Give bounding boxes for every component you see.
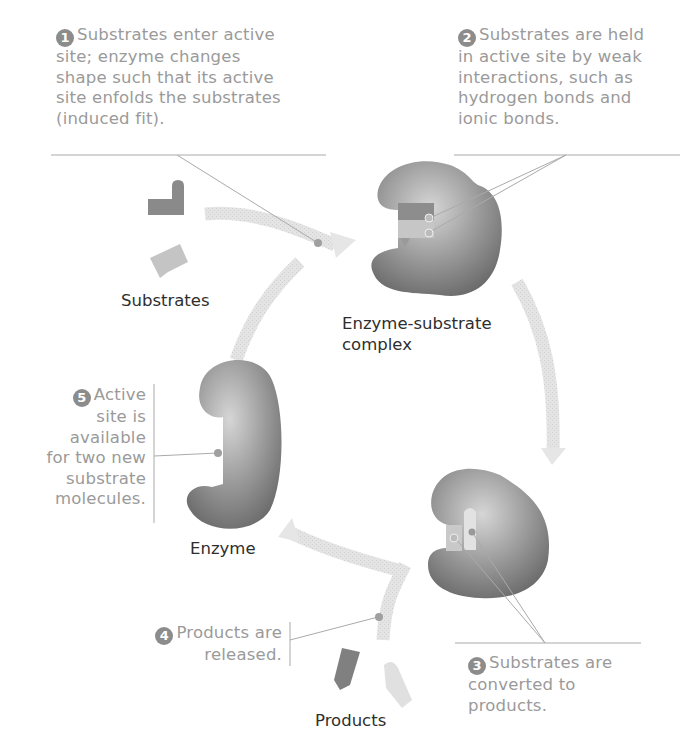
product-light — [384, 662, 412, 708]
complex-label-line-1: Enzyme-substrate — [342, 314, 492, 334]
arrow-complex-to-converted — [517, 282, 553, 455]
enzyme-label: Enzyme — [190, 539, 256, 559]
substrate-dark — [148, 180, 184, 215]
step-5-annotation: 5Active site is available for two new su… — [0, 385, 146, 510]
step-2-line-5: ionic bonds. — [458, 109, 688, 130]
step-1-line-5: (induced fit). — [56, 109, 346, 130]
enzyme-cycle-diagram: 1Substrates enter active site; enzyme ch… — [0, 0, 689, 743]
complex-label-line-2: complex — [342, 335, 412, 355]
product-dark — [334, 648, 360, 690]
step-3-annotation: 3Substrates are converted to products. — [468, 653, 668, 716]
step-3-number-badge: 3 — [468, 657, 486, 675]
step-5-line-3: available — [0, 428, 146, 449]
arrow-product-release — [383, 565, 405, 640]
step-1-line-2: site; enzyme changes — [56, 47, 346, 68]
step-1-line-4: site enfolds the substrates — [56, 88, 346, 109]
step-5-line-5: substrate — [0, 469, 146, 490]
step-4-line-2: released. — [100, 645, 282, 666]
arrow-enzyme-to-substrates — [236, 262, 300, 360]
step-5-line-1: Active — [94, 385, 146, 404]
step-5-number-badge: 5 — [73, 389, 91, 407]
substrate-light — [150, 244, 188, 278]
step-2-line-2: in active site by weak — [458, 47, 688, 68]
step-5-line-6: molecules. — [0, 489, 146, 510]
step-2-line-4: hydrogen bonds and — [458, 88, 688, 109]
step-4-annotation: 4Products are released. — [100, 623, 282, 666]
step-2-annotation: 2Substrates are held in active site by w… — [458, 25, 688, 129]
step-2-number-badge: 2 — [458, 29, 476, 47]
step-1-line-1: Substrates enter active — [77, 25, 275, 44]
substrates-label: Substrates — [121, 291, 210, 311]
enzyme-product-complex — [428, 469, 549, 598]
step-5-line-2: site is — [0, 407, 146, 428]
step-3-line-3: products. — [468, 696, 668, 717]
step-5-line-4: for two new — [0, 448, 146, 469]
step-2-line-1: Substrates are held — [479, 25, 644, 44]
step-4-number-badge: 4 — [155, 627, 173, 645]
product-molecules — [334, 648, 412, 708]
step-3-line-2: converted to — [468, 675, 668, 696]
products-label: Products — [315, 711, 386, 731]
step-1-number-badge: 1 — [56, 29, 74, 47]
step-1-line-3: shape such that its active — [56, 68, 346, 89]
step-4-line-1: Products are — [176, 623, 282, 642]
step-2-line-3: interactions, such as — [458, 68, 688, 89]
substrate-molecules — [148, 180, 188, 278]
arrow-converted-to-enzyme — [285, 530, 398, 570]
step-1-annotation: 1Substrates enter active site; enzyme ch… — [56, 25, 346, 129]
enzyme-free — [187, 360, 282, 529]
step-3-line-1: Substrates are — [489, 653, 612, 672]
